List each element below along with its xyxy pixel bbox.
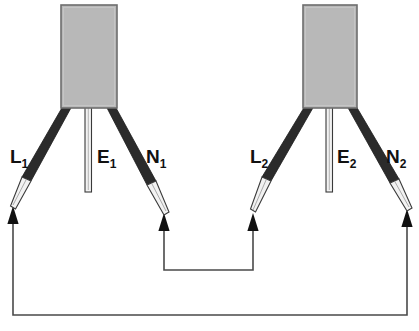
lead-label-l2: L2: [250, 146, 269, 171]
outer-link-path: [13, 220, 407, 315]
arrowhead-n2: [401, 209, 412, 227]
arrowhead-n1: [158, 213, 169, 231]
block-body-left[interactable]: [61, 5, 117, 108]
diagram-canvas: L1 E1 N1: [0, 0, 419, 331]
arrowhead-l2: [247, 213, 258, 231]
lead-label-l1: L1: [10, 146, 29, 171]
lead-e1[interactable]: [85, 106, 92, 192]
inner-link-path: [164, 227, 253, 270]
lead-label-e2: E2: [337, 146, 357, 171]
connector-block-right-assembly: L2 E2 N2: [250, 5, 412, 212]
connector-block-left-assembly: L1 E1 N1: [10, 5, 169, 215]
lead-label-e1: E1: [97, 146, 117, 171]
arrowhead-l1: [7, 206, 18, 224]
lead-e2[interactable]: [326, 106, 333, 192]
wiring-diagram: L1 E1 N1: [0, 0, 419, 331]
lead-label-n1: N1: [146, 146, 167, 171]
link-wiring: [7, 206, 412, 315]
block-body-right[interactable]: [303, 5, 357, 108]
